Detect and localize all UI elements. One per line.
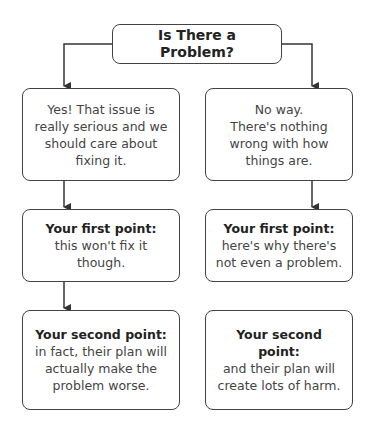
left-first-point-box: Your first point: this won't fix it thou…	[22, 209, 180, 282]
question-title: Is There a Problem?	[121, 27, 273, 61]
right-first-point-text: here's why there's not even a problem.	[216, 238, 342, 270]
right-second-point-label: Your second point:	[214, 326, 344, 360]
left-first-point-label: Your first point:	[46, 220, 157, 237]
right-first-point-label: Your first point:	[224, 221, 335, 236]
yes-answer-text: Yes! That issue is really serious and we…	[31, 101, 171, 169]
left-second-point-label: Your second point:	[35, 326, 167, 343]
question-box: Is There a Problem?	[112, 24, 282, 64]
yes-answer-box: Yes! That issue is really serious and we…	[22, 88, 180, 181]
right-second-point-text: and their plan will create lots of harm.	[214, 360, 344, 394]
left-second-point-text: in fact, their plan will actually make t…	[31, 343, 171, 394]
no-answer-line2: There's nothing wrong with how things ar…	[214, 118, 344, 169]
no-answer-line1: No way.	[255, 101, 303, 118]
no-answer-box: No way. There's nothing wrong with how t…	[205, 88, 353, 181]
right-second-point-box: Your second point: and their plan will c…	[205, 310, 353, 410]
left-second-point-box: Your second point: in fact, their plan w…	[22, 310, 180, 410]
left-first-point-text: this won't fix it though.	[31, 237, 171, 271]
right-first-point-box: Your first point: here's why there's not…	[205, 209, 353, 282]
